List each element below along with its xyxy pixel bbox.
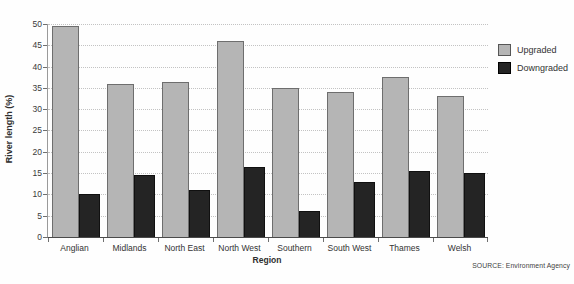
legend-item-upgraded: Upgraded — [498, 44, 568, 56]
bars-container — [48, 24, 488, 237]
x-tick-mark-7 — [433, 238, 434, 242]
x-category-label-thames: Thames — [377, 243, 432, 253]
y-tick-mark-45 — [43, 45, 47, 46]
y-tick-label-40: 40 — [22, 63, 42, 72]
bar-group-welsh — [433, 24, 488, 237]
river-quality-bar-chart: River length (%) 05101520253035404550 An… — [0, 0, 574, 284]
x-axis-title: Region — [47, 255, 487, 265]
y-tick-mark-15 — [43, 173, 47, 174]
x-tick-mark-5 — [323, 238, 324, 242]
legend: Upgraded Downgraded — [498, 44, 568, 80]
bar-group-south-west — [323, 24, 378, 237]
bar-group-midlands — [103, 24, 158, 237]
upgraded-bar-south-west — [327, 92, 354, 237]
bar-group-southern — [268, 24, 323, 237]
downgraded-bar-north-west — [244, 167, 265, 237]
downgraded-bar-thames — [409, 171, 430, 237]
downgraded-swatch-icon — [498, 62, 511, 74]
legend-item-downgraded: Downgraded — [498, 62, 568, 74]
y-tick-label-50: 50 — [22, 20, 42, 29]
x-tick-mark-8 — [487, 238, 488, 242]
x-category-label-south-west: South West — [322, 243, 377, 253]
y-tick-mark-50 — [43, 24, 47, 25]
upgraded-swatch-icon — [498, 44, 511, 56]
y-tick-mark-0 — [43, 237, 47, 238]
x-category-label-anglian: Anglian — [47, 243, 102, 253]
legend-label-downgraded: Downgraded — [517, 63, 568, 73]
upgraded-bar-north-east — [162, 82, 189, 237]
x-category-label-north-west: North West — [212, 243, 267, 253]
y-tick-label-20: 20 — [22, 148, 42, 157]
y-tick-label-15: 15 — [22, 169, 42, 178]
x-category-label-southern: Southern — [267, 243, 322, 253]
y-axis-title: River length (%) — [4, 69, 14, 189]
x-tick-mark-1 — [103, 238, 104, 242]
y-tick-mark-5 — [43, 216, 47, 217]
y-tick-mark-25 — [43, 130, 47, 131]
y-tick-label-30: 30 — [22, 105, 42, 114]
x-category-label-north-east: North East — [157, 243, 212, 253]
x-axis-category-labels: AnglianMidlandsNorth EastNorth WestSouth… — [47, 243, 487, 255]
downgraded-bar-midlands — [134, 175, 155, 237]
upgraded-bar-anglian — [52, 26, 79, 237]
downgraded-bar-north-east — [189, 190, 210, 237]
downgraded-bar-south-west — [354, 182, 375, 237]
plot-area — [47, 24, 488, 238]
upgraded-bar-welsh — [437, 96, 464, 237]
y-tick-mark-35 — [43, 88, 47, 89]
y-tick-mark-30 — [43, 109, 47, 110]
y-tick-label-25: 25 — [22, 126, 42, 135]
downgraded-bar-welsh — [464, 173, 485, 237]
x-tick-mark-2 — [158, 238, 159, 242]
bar-group-north-east — [158, 24, 213, 237]
upgraded-bar-midlands — [107, 84, 134, 237]
x-category-label-midlands: Midlands — [102, 243, 157, 253]
upgraded-bar-thames — [382, 77, 409, 237]
source-note: SOURCE: Environment Agency — [472, 262, 570, 269]
y-tick-label-5: 5 — [22, 212, 42, 221]
y-tick-label-35: 35 — [22, 84, 42, 93]
bar-group-north-west — [213, 24, 268, 237]
x-tick-mark-4 — [268, 238, 269, 242]
y-tick-mark-40 — [43, 67, 47, 68]
downgraded-bar-southern — [299, 211, 320, 237]
x-category-label-welsh: Welsh — [432, 243, 487, 253]
x-tick-mark-0 — [48, 238, 49, 242]
upgraded-bar-north-west — [217, 41, 244, 237]
x-tick-mark-3 — [213, 238, 214, 242]
x-tick-mark-6 — [378, 238, 379, 242]
legend-label-upgraded: Upgraded — [517, 45, 557, 55]
y-tick-label-45: 45 — [22, 41, 42, 50]
y-tick-label-10: 10 — [22, 190, 42, 199]
downgraded-bar-anglian — [79, 194, 100, 237]
upgraded-bar-southern — [272, 88, 299, 237]
bar-group-thames — [378, 24, 433, 237]
bar-group-anglian — [48, 24, 103, 237]
y-tick-mark-20 — [43, 152, 47, 153]
y-tick-mark-10 — [43, 194, 47, 195]
y-tick-label-0: 0 — [22, 233, 42, 242]
